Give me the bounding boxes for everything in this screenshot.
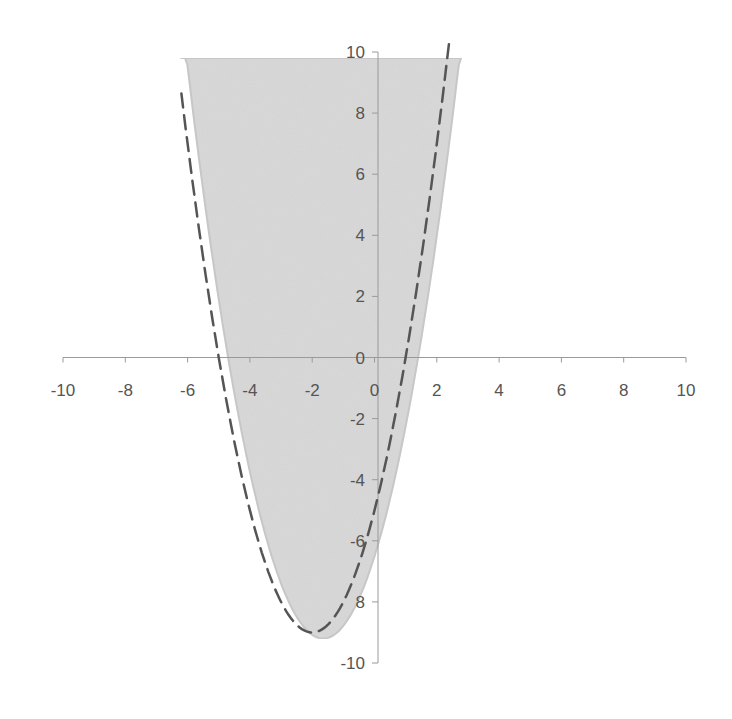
y-tick-label: -4 [350,471,365,490]
x-tick-label: 2 [432,381,441,400]
y-tick-label: 2 [356,287,365,306]
shaded-area [180,58,461,639]
y-tick-label: -10 [340,654,365,673]
y-tick-label: 8 [356,104,365,123]
x-tick-label: -6 [180,381,195,400]
x-tick-label: 10 [677,381,696,400]
x-tick-label: -2 [305,381,320,400]
x-tick-label: 8 [619,381,628,400]
parabola-chart: -10-8-6-4-202468101086420-2-4-68-10 [0,0,732,719]
x-tick-label: 0 [370,381,379,400]
y-tick-label: 6 [356,165,365,184]
x-tick-label: -8 [118,381,133,400]
y-tick-label: 4 [356,226,365,245]
x-tick-label: 6 [557,381,566,400]
y-tick-label: 10 [346,43,365,62]
y-tick-label: 0 [356,349,365,368]
y-tick-label: 8 [356,593,365,612]
x-tick-label: -4 [242,381,257,400]
y-tick-label: -2 [350,410,365,429]
y-tick-label: -6 [350,532,365,551]
x-tick-label: 4 [494,381,503,400]
x-tick-label: -10 [51,381,76,400]
shaded-region [180,58,461,639]
